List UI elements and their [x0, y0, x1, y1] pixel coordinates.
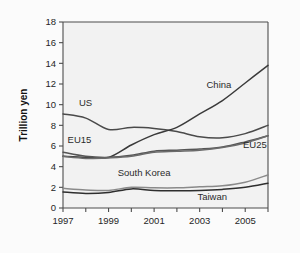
x-tick-label: 2003: [189, 215, 210, 226]
x-tick-label: 1997: [52, 215, 73, 226]
y-tick-label: 14: [45, 58, 56, 69]
y-tick-label: 4: [51, 161, 56, 172]
y-tick-label: 18: [45, 16, 56, 27]
y-tick-label: 10: [45, 99, 56, 110]
y-tick-label: 2: [51, 182, 56, 193]
series-label-taiwan: Taiwan: [197, 191, 227, 202]
series-label-us: US: [79, 97, 92, 108]
x-tick-label: 2001: [144, 215, 165, 226]
y-axis-ticks: [59, 22, 63, 208]
y-tick-label: 12: [45, 78, 56, 89]
x-axis-ticks: [63, 208, 268, 212]
y-tick-label: 16: [45, 37, 56, 48]
series-label-eu25: EU25: [243, 139, 267, 150]
x-axis-tick-labels: 19971999200120032005: [52, 215, 255, 226]
chart-figure: 024681012141618 19971999200120032005 USC…: [0, 0, 300, 253]
x-tick-label: 1999: [98, 215, 119, 226]
y-tick-label: 6: [51, 140, 56, 151]
y-axis-title: Trillion yen: [18, 89, 29, 142]
series-label-south-korea: South Korea: [118, 167, 172, 178]
line-chart: 024681012141618 19971999200120032005 USC…: [0, 0, 300, 253]
y-tick-label: 8: [51, 120, 56, 131]
series-label-china: China: [207, 79, 233, 90]
x-tick-label: 2005: [235, 215, 256, 226]
y-tick-label: 0: [51, 202, 56, 213]
plot-area-background: [63, 22, 268, 208]
y-axis-tick-labels: 024681012141618: [45, 16, 56, 213]
series-label-eu15: EU15: [68, 134, 92, 145]
